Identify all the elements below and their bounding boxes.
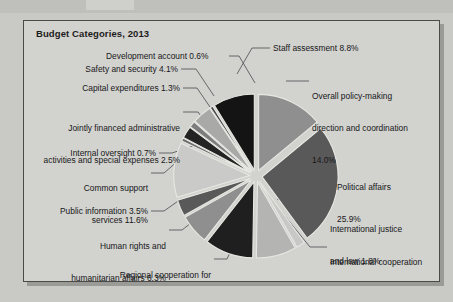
leader-line-capital-expenditures (183, 88, 210, 107)
callout-staff-assessment: Staff assessment 8.8% (273, 43, 359, 54)
callout-overall-policy-making-line2: direction and coordination (312, 123, 408, 134)
callout-internal-oversight: Internal oversight 0.7% (30, 148, 156, 159)
callout-regional-cooperation-line1: Regional cooperation for (58, 270, 211, 281)
page-top-band (0, 0, 453, 13)
callout-international-cooperation-line1: International cooperation (330, 257, 422, 268)
callout-political-affairs-line1: Political affairs (337, 182, 391, 193)
callout-safety-and-security: Safety and security 4.1% (30, 64, 178, 75)
chart-panel-inner: Budget Categories, 2013 (24, 21, 439, 281)
callout-regional-cooperation: Regional cooperation for development 10.… (58, 249, 211, 281)
callout-jointly-financed-line1: Jointly financed administrative (26, 123, 180, 134)
screenshot-root: Budget Categories, 2013 (0, 0, 453, 302)
chart-panel: Budget Categories, 2013 (23, 20, 440, 282)
callout-development-account: Development account 0.6% (106, 51, 208, 62)
callout-capital-expenditures: Capital expenditures 1.3% (30, 83, 180, 94)
page-corner-patch (86, 0, 134, 10)
callout-public-information: Public information 3.5% (30, 206, 148, 217)
leader-line-public-information (151, 199, 181, 211)
leader-line-safety-and-security (181, 69, 214, 96)
callout-common-support-line1: Common support (30, 183, 148, 194)
callout-overall-policy-making-line1: Overall policy-making (312, 91, 408, 102)
callout-international-justice-line1: International justice (330, 224, 402, 235)
callout-international-cooperation: International cooperation for developmen… (330, 236, 422, 281)
leader-line-development-account (229, 56, 255, 83)
